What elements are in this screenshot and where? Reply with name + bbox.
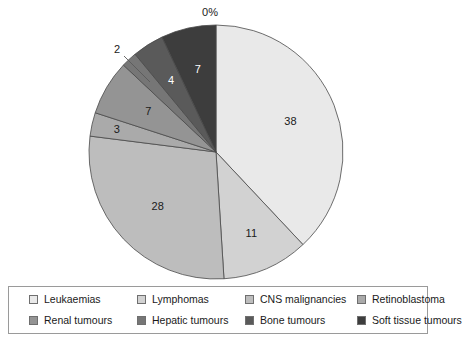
legend-swatch bbox=[245, 316, 254, 325]
pie-slices-group bbox=[89, 25, 343, 279]
legend-grid: LeukaemiasLymphomasCNS malignanciesRetin… bbox=[9, 287, 427, 333]
legend-item: Renal tumours bbox=[29, 315, 137, 326]
legend-item-label: Leukaemias bbox=[44, 294, 101, 305]
legend-item-label: Lymphomas bbox=[152, 294, 209, 305]
legend-item: Leukaemias bbox=[29, 294, 137, 305]
legend-item-label: Bone tumours bbox=[260, 315, 325, 326]
legend-item: Soft tissue tumours bbox=[357, 315, 449, 326]
legend-swatch bbox=[357, 316, 366, 325]
pie-slice-value-label: 2 bbox=[114, 43, 120, 55]
pie-slice-value-label: 28 bbox=[152, 200, 164, 212]
legend-swatch bbox=[137, 316, 146, 325]
pie-slice-value-label: 7 bbox=[145, 105, 151, 117]
legend-item-label: Hepatic tumours bbox=[152, 315, 228, 326]
legend-swatch bbox=[29, 316, 38, 325]
legend-item: Retinoblastoma bbox=[357, 294, 449, 305]
legend-swatch bbox=[137, 295, 146, 304]
legend-swatch bbox=[357, 295, 366, 304]
legend-item-label: Retinoblastoma bbox=[372, 294, 445, 305]
zero-percent-label: 0% bbox=[202, 6, 218, 18]
pie-slice-value-label: 7 bbox=[195, 63, 201, 75]
pie-slice-value-label: 38 bbox=[284, 115, 296, 127]
pie-slice-value-label: 11 bbox=[246, 227, 257, 239]
legend-item-label: Soft tissue tumours bbox=[372, 315, 462, 326]
legend-item: Hepatic tumours bbox=[137, 315, 245, 326]
chart-legend: LeukaemiasLymphomasCNS malignanciesRetin… bbox=[8, 286, 428, 334]
legend-item: Bone tumours bbox=[245, 315, 357, 326]
legend-item: Lymphomas bbox=[137, 294, 245, 305]
legend-swatch bbox=[29, 295, 38, 304]
legend-swatch bbox=[245, 295, 254, 304]
pie-slice-value-label: 4 bbox=[168, 74, 174, 86]
legend-item-label: Renal tumours bbox=[44, 315, 112, 326]
legend-item-label: CNS malignancies bbox=[260, 294, 346, 305]
legend-item: CNS malignancies bbox=[245, 294, 357, 305]
pie-slice-value-label: 3 bbox=[114, 123, 120, 135]
